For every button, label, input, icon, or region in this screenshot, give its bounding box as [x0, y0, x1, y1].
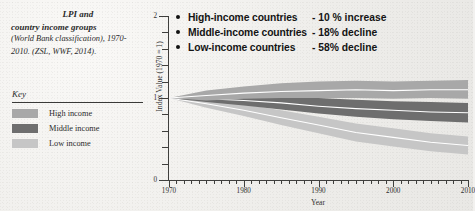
x-tick-minor: [311, 180, 312, 184]
x-tick-minor: [191, 180, 192, 184]
legend-label-high-income: High income: [49, 109, 92, 118]
x-tick-minor: [446, 180, 447, 184]
y-tick-major: [159, 180, 168, 181]
y-tick-minor: [162, 131, 168, 132]
x-tick-minor: [408, 180, 409, 184]
legend-item-high-income: High income: [12, 109, 143, 118]
x-tick-minor: [333, 180, 334, 184]
x-tick-minor: [251, 180, 252, 184]
x-tick-minor: [221, 180, 222, 184]
x-tick-minor: [438, 180, 439, 184]
y-tick-minor: [162, 114, 168, 115]
legend-divider: [12, 102, 143, 103]
x-tick-minor: [431, 180, 432, 184]
x-tick-minor: [289, 180, 290, 184]
legend-label-middle-income: Middle income: [49, 124, 99, 133]
y-tick-label: 0: [149, 176, 157, 184]
x-tick-minor: [401, 180, 402, 184]
x-tick-minor: [326, 180, 327, 184]
x-tick-minor: [341, 180, 342, 184]
legend-label-low-income: Low income: [49, 139, 91, 148]
legend-title: Key: [12, 89, 143, 99]
x-tick-minor: [266, 180, 267, 184]
x-tick-minor: [296, 180, 297, 184]
legend-item-low-income: Low income: [12, 139, 143, 148]
x-tick-minor: [274, 180, 275, 184]
x-tick-minor: [281, 180, 282, 184]
y-tick-minor: [162, 32, 168, 33]
legend-swatch-low-income: [12, 139, 38, 148]
y-tick-minor: [162, 49, 168, 50]
x-tick-minor: [453, 180, 454, 184]
legend-swatch-high-income: [12, 109, 38, 118]
legend-swatch-middle-income: [12, 124, 38, 133]
x-axis-title: Year: [168, 198, 468, 207]
legend-item-middle-income: Middle income: [12, 124, 143, 133]
plot-area: [169, 16, 468, 180]
x-tick-label: 1990: [311, 187, 325, 195]
x-tick-major: [319, 180, 320, 187]
y-tick-minor: [162, 164, 168, 165]
x-tick-minor: [206, 180, 207, 184]
x-tick-minor: [199, 180, 200, 184]
x-tick-minor: [386, 180, 387, 184]
x-tick-minor: [304, 180, 305, 184]
figure-caption: LPI and country income groups (World Ban…: [11, 8, 145, 58]
x-tick-label: 1970: [162, 187, 176, 195]
y-tick-minor: [162, 82, 168, 83]
y-tick-minor: [162, 65, 168, 66]
x-tick-major: [169, 180, 170, 187]
x-tick-minor: [229, 180, 230, 184]
x-tick-minor: [356, 180, 357, 184]
x-tick-minor: [423, 180, 424, 184]
y-tick-label: 2: [149, 12, 157, 20]
caption-line-3: (World Bank classification), 1970-2010. …: [11, 33, 145, 58]
x-tick-major: [468, 180, 469, 187]
x-tick-minor: [363, 180, 364, 184]
x-tick-minor: [236, 180, 237, 184]
y-tick-label: 1: [149, 94, 157, 102]
x-tick-minor: [184, 180, 185, 184]
y-tick-minor: [162, 147, 168, 148]
y-tick-major: [159, 16, 168, 17]
x-tick-minor: [348, 180, 349, 184]
x-tick-minor: [416, 180, 417, 184]
series-bands: [169, 16, 468, 180]
x-tick-minor: [378, 180, 379, 184]
legend-key: Key High income Middle income Low income: [12, 89, 143, 148]
x-tick-major: [393, 180, 394, 187]
x-tick-minor: [371, 180, 372, 184]
caption-line-1: LPI and: [11, 8, 145, 21]
x-tick-minor: [259, 180, 260, 184]
x-tick-minor: [214, 180, 215, 184]
caption-line-2: country income groups: [11, 21, 145, 34]
x-tick-major: [244, 180, 245, 187]
x-tick-minor: [461, 180, 462, 184]
lpi-chart: Index Value (1970 = 1) 012 1970198019902…: [150, 10, 470, 190]
x-tick-minor: [176, 180, 177, 184]
x-tick-label: 2010: [461, 187, 475, 195]
x-tick-label: 1980: [237, 187, 251, 195]
y-tick-major: [159, 98, 168, 99]
x-tick-label: 2000: [386, 187, 400, 195]
